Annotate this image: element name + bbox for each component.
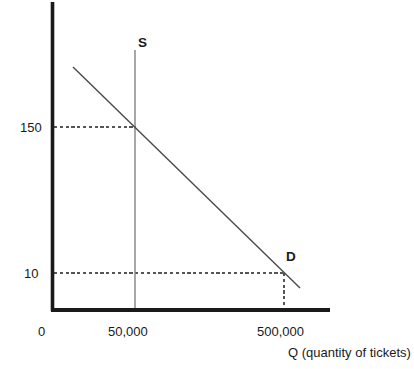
demand-curve-line — [73, 67, 300, 288]
x-tick-label-50000: 50,000 — [108, 325, 148, 338]
demand-curve-label: D — [286, 250, 296, 264]
y-tick-label-10: 10 — [24, 267, 38, 280]
x-tick-label-500000: 500,000 — [257, 325, 304, 338]
x-axis-title: Q (quantity of tickets) — [288, 346, 411, 359]
chart-canvas — [0, 0, 414, 369]
x-tick-label-0: 0 — [38, 325, 45, 338]
supply-curve-label: S — [138, 36, 147, 50]
supply-demand-chart: 150 10 0 50,000 500,000 S D Q (quantity … — [0, 0, 414, 369]
y-tick-label-150: 150 — [20, 121, 42, 134]
